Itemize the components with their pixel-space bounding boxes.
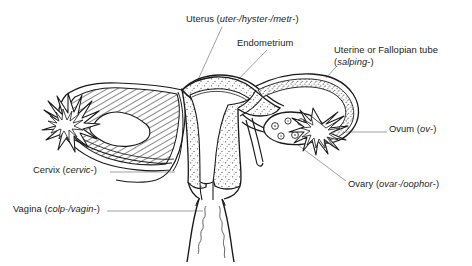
label-uterine-tube: Uterine or Fallopian tube (salping-) <box>334 44 438 67</box>
label-vagina-text: Vagina (colp-/vagin-) <box>13 203 100 214</box>
label-endometrium: Endometrium <box>237 37 293 49</box>
label-cervix-text: Cervix (cervic-) <box>33 164 97 175</box>
vagina-rugae-left <box>198 206 206 254</box>
label-uterus: Uterus (uter-/hyster-/metr-) <box>186 13 299 25</box>
label-endometrium-text: Endometrium <box>237 37 293 48</box>
label-ovary: Ovary (ovar-/oophor-) <box>348 178 439 190</box>
label-ovary-text: Ovary (ovar-/oophor-) <box>348 178 439 189</box>
label-uterine-tube-line1: Uterine or Fallopian tube <box>334 44 438 56</box>
label-vagina: Vagina (colp-/vagin-) <box>13 203 100 215</box>
label-uterine-tube-line2: (salping-) <box>334 56 438 68</box>
vagina-rugae-right <box>219 206 225 258</box>
vagina-right-wall <box>222 199 234 262</box>
vagina-left-wall <box>187 199 199 262</box>
label-uterus-text: Uterus (uter-/hyster-/metr-) <box>186 13 299 24</box>
label-cervix: Cervix (cervic-) <box>33 164 97 176</box>
label-ovum-text: Ovum (ov-) <box>389 123 436 134</box>
round-ligament-tip <box>257 163 263 166</box>
figure-canvas: Uterus (uter-/hyster-/metr-) Endometrium… <box>0 0 472 266</box>
label-ovum: Ovum (ov-) <box>389 123 436 135</box>
vagina <box>187 199 234 262</box>
leader-ovary <box>290 139 346 181</box>
round-ligament <box>246 118 263 164</box>
